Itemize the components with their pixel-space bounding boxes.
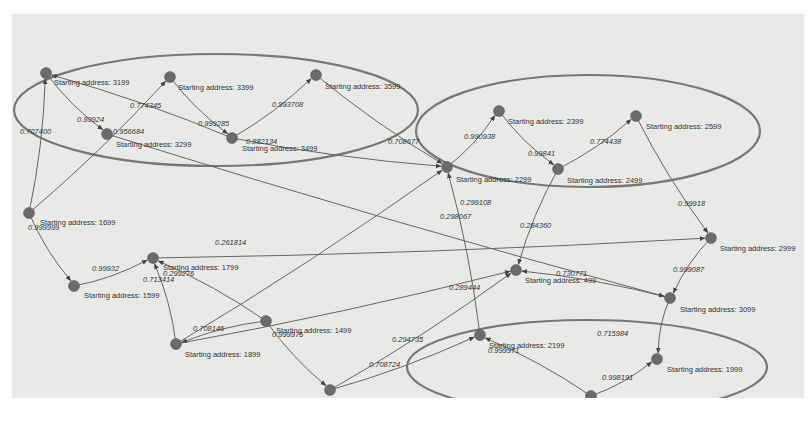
graph-node[interactable] xyxy=(41,68,52,79)
graph-node[interactable] xyxy=(102,129,113,140)
edge-weight-label: 0.999285 xyxy=(198,119,230,128)
node-address-label: Starting address: 3599 xyxy=(325,82,400,91)
node-address-label: Starting address: 1899 xyxy=(185,350,260,359)
edge-weight-label: 0.99841 xyxy=(528,149,555,158)
edge-weight-label: 0.999087 xyxy=(673,265,705,274)
graph-node[interactable] xyxy=(553,164,564,175)
edge-weight-label: 0.294735 xyxy=(392,335,424,344)
graph-node[interactable] xyxy=(148,253,159,264)
edge-weight-label: 0.99924 xyxy=(77,115,104,124)
node-address-label: Starting address: 499 xyxy=(525,276,596,285)
node-address-label: Starting address: 3499 xyxy=(242,144,317,153)
graph-node[interactable] xyxy=(511,265,522,276)
graph-node[interactable] xyxy=(165,72,176,83)
cluster-ellipse xyxy=(14,54,418,166)
edge-weight-label: 0.708677 xyxy=(388,137,420,146)
edge-weight-label: 0.998191 xyxy=(602,373,633,382)
node-address-label: Starting address: 1999 xyxy=(667,365,742,374)
edge-weight-label: 0.284360 xyxy=(520,221,552,230)
graph-edge[interactable] xyxy=(447,115,495,167)
graph-node[interactable] xyxy=(706,233,717,244)
node-address-label: Starting address: 2399 xyxy=(508,117,583,126)
node-address-label: Starting address: 2999 xyxy=(720,244,795,253)
graph-node[interactable] xyxy=(652,354,663,365)
node-address-label: Starting address: 3199 xyxy=(54,78,129,87)
graph-node[interactable] xyxy=(631,111,642,122)
page-margin-bottom xyxy=(0,398,810,434)
node-address-label: Starting address: 2499 xyxy=(567,176,642,185)
node-address-label: Starting address: 1799 xyxy=(163,263,238,272)
edge-weight-label: 0.708724 xyxy=(369,360,400,369)
node-address-label: Starting address: 2299 xyxy=(456,175,531,184)
node-layer xyxy=(24,68,717,402)
node-address-label: Starting address: 3099 xyxy=(680,305,755,314)
graph-node[interactable] xyxy=(311,70,322,81)
node-address-label: Starting address: 2599 xyxy=(646,122,721,131)
graph-diagram: 0.7074000.999240.7743450.9992850.9937080… xyxy=(0,0,810,434)
graph-node[interactable] xyxy=(171,339,182,350)
node-address-label: Starting address: 3399 xyxy=(178,83,253,92)
edge-weight-label: 0.715984 xyxy=(597,329,628,338)
graph-edge[interactable] xyxy=(330,337,474,390)
graph-node[interactable] xyxy=(475,330,486,341)
edge-weight-label: 0.990938 xyxy=(464,132,496,141)
edge-weight-label: 0.956684 xyxy=(113,127,144,136)
node-address-label: Starting address: 1599 xyxy=(84,291,159,300)
graph-node[interactable] xyxy=(442,162,453,173)
edge-weight-label: 0.99932 xyxy=(92,264,120,273)
edge-weight-label: 0.298067 xyxy=(440,212,472,221)
edge-layer xyxy=(29,73,711,396)
edge-weight-label: 0.708146 xyxy=(193,324,225,333)
graph-node[interactable] xyxy=(494,106,505,117)
edge-weight-label: 0.299108 xyxy=(460,198,492,207)
graph-node[interactable] xyxy=(261,316,272,327)
node-address-label: Starting address: 1699 xyxy=(40,218,115,227)
edge-weight-label: 0.289444 xyxy=(449,283,480,292)
graph-edge[interactable] xyxy=(29,79,45,213)
graph-node[interactable] xyxy=(665,293,676,304)
cluster-ellipse xyxy=(416,75,760,187)
node-address-label: Starting address: 3299 xyxy=(116,140,191,149)
graph-node[interactable] xyxy=(69,281,80,292)
node-address-label: Starting address: 2199 xyxy=(489,341,564,350)
edge-weight-label: 0.99918 xyxy=(678,199,706,208)
edge-weight-label: 0.774438 xyxy=(590,137,622,146)
graph-node[interactable] xyxy=(24,208,35,219)
graph-node[interactable] xyxy=(227,133,238,144)
edge-weight-label: 0.993708 xyxy=(272,100,304,109)
edge-weight-label: 0.707400 xyxy=(20,127,52,136)
node-address-label: Starting address: 1499 xyxy=(276,326,351,335)
edge-weight-label: 0.261814 xyxy=(215,238,246,247)
edge-weight-label: 0.774345 xyxy=(130,101,162,110)
graph-node[interactable] xyxy=(325,385,336,396)
